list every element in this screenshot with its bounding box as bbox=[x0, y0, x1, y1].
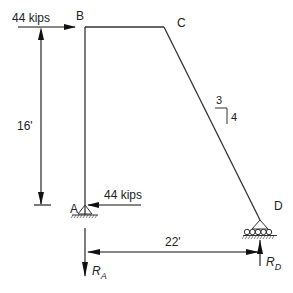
span-label: 22' bbox=[165, 235, 181, 249]
top-load-label: 44 kips bbox=[12, 11, 50, 25]
node-A-label: A bbox=[70, 202, 78, 216]
node-D-label: D bbox=[274, 199, 283, 213]
base-load-label: 44 kips bbox=[104, 188, 142, 202]
height-dimension bbox=[34, 27, 51, 205]
reaction-RD-label: RD bbox=[266, 255, 282, 272]
frame-svg: 44 kips B C A D 16' 44 kips bbox=[0, 0, 293, 293]
slope-indicator bbox=[215, 108, 227, 124]
node-B-label: B bbox=[76, 9, 84, 23]
reaction-RA-arrow bbox=[82, 228, 88, 277]
reaction-RA-label: RA bbox=[92, 264, 107, 281]
height-label: 16' bbox=[17, 119, 33, 133]
slope-rise-label: 3 bbox=[216, 94, 222, 106]
member-CD bbox=[164, 27, 260, 220]
frame-diagram: 44 kips B C A D 16' 44 kips bbox=[0, 0, 293, 293]
span-dimension bbox=[87, 249, 259, 255]
node-C-label: C bbox=[177, 16, 186, 30]
slope-run-label: 4 bbox=[231, 111, 237, 123]
roller-support-D bbox=[242, 220, 277, 239]
reaction-RD-arrow bbox=[257, 240, 263, 266]
